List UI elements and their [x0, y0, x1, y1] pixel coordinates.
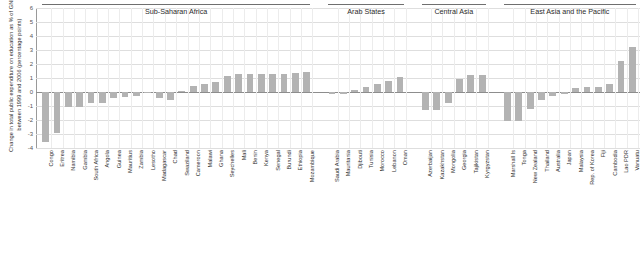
bar-separator [74, 8, 75, 148]
bar [456, 79, 463, 92]
bar [76, 92, 83, 107]
bar [212, 82, 219, 92]
x-axis-label: Mauritius [127, 150, 133, 173]
x-axis-label: Angola [104, 150, 110, 168]
y-axis-tick-label: 5 [30, 19, 33, 25]
bar-separator [97, 8, 98, 148]
bar-separator [119, 8, 120, 148]
x-axis-label: Chad [172, 150, 178, 163]
y-axis-tick-label: 0 [30, 89, 33, 95]
bar [351, 90, 358, 92]
bar [479, 75, 486, 93]
bar [133, 92, 140, 96]
bar-separator [360, 8, 361, 148]
x-axis-label: Tonga [521, 150, 527, 165]
bar [572, 88, 579, 92]
x-axis-label: Saudi Arabia [334, 150, 340, 182]
bar [247, 74, 254, 92]
bar-separator [513, 8, 514, 148]
y-axis-title: Change in total public expenditure on ed… [0, 0, 26, 160]
bar [156, 92, 163, 98]
bar [618, 61, 625, 93]
x-axis-label: Madagascar [161, 150, 167, 181]
bar [99, 92, 106, 103]
x-axis-label: Georgia [461, 150, 467, 170]
region-rule [328, 4, 403, 5]
bar [363, 87, 370, 92]
y-axis-tick-label: 4 [30, 33, 33, 39]
x-axis-label: Guinea [116, 150, 122, 168]
bar-separator [176, 8, 177, 148]
bar-separator [290, 8, 291, 148]
y-axis-tick-label: -3 [28, 131, 33, 137]
bar-separator [51, 8, 52, 148]
x-axis-label: Ghana [218, 150, 224, 167]
y-axis-tick-label: -1 [28, 103, 33, 109]
bar-separator [570, 8, 571, 148]
x-axis-label: Mongolia [450, 150, 456, 173]
bar-separator [465, 8, 466, 148]
y-axis-title-line-2: between 1999 and 2006 (percentage points… [16, 0, 23, 152]
bar [527, 92, 534, 109]
bar-separator [536, 8, 537, 148]
x-axis-label: Cambodia [612, 150, 618, 176]
bar-separator [244, 8, 245, 148]
bar-separator [372, 8, 373, 148]
x-axis-label: Kenya [263, 150, 269, 166]
bar-separator [301, 8, 302, 148]
y-axis-tick-label: 6 [30, 5, 33, 11]
x-axis-label: Kyrgyzstan [484, 150, 490, 178]
x-axis-label: Seychelles [229, 150, 235, 177]
bar-separator [210, 8, 211, 148]
x-axis-labels: CongoEritreaNamibiaGambiaSouth AfricaAng… [36, 150, 640, 250]
bar-separator [349, 8, 350, 148]
bar [122, 92, 129, 97]
bar-separator [627, 8, 628, 148]
region-header: Sub-Saharan Africa [40, 7, 312, 16]
x-axis-label: Namibia [70, 150, 76, 171]
bar-separator [488, 8, 489, 148]
region-header: Central Asia [420, 7, 488, 16]
bar-separator [142, 8, 143, 148]
x-axis-label: Eritrea [59, 150, 65, 167]
bar-separator [188, 8, 189, 148]
bar [445, 92, 452, 103]
bar [65, 92, 72, 107]
bar [433, 92, 440, 110]
bar-separator [153, 8, 154, 148]
bar [190, 86, 197, 92]
bar-separator [442, 8, 443, 148]
bar-separator [338, 8, 339, 148]
x-axis-label: Morocco [379, 150, 385, 172]
y-axis-tick-label: 2 [30, 61, 33, 67]
x-axis-label: Australia [555, 150, 561, 172]
x-axis-label: Mozambique [309, 150, 315, 182]
bar-separator [476, 8, 477, 148]
bar [584, 87, 591, 92]
region-rule [42, 4, 310, 5]
bar [385, 81, 392, 92]
bar [595, 87, 602, 92]
y-axis-tick-label: 1 [30, 75, 33, 81]
bar [292, 73, 299, 92]
x-axis-label: Mali [241, 150, 247, 160]
x-axis-label: Lao PDR [623, 150, 629, 173]
region-rule [422, 4, 486, 5]
x-axis-label: Lebanon [391, 150, 397, 172]
bar-separator [312, 8, 313, 148]
x-axis-label: Djibouti [357, 150, 363, 169]
bar-separator [131, 8, 132, 148]
x-axis-label: Burundi [286, 150, 292, 169]
bar [258, 74, 265, 92]
bar-separator [559, 8, 560, 148]
bar [42, 92, 49, 142]
bar [235, 74, 242, 92]
bar-separator [233, 8, 234, 148]
bar [269, 74, 276, 92]
bar-separator [394, 8, 395, 148]
bar [224, 76, 231, 92]
bar-separator [199, 8, 200, 148]
bar-separator [593, 8, 594, 148]
x-axis-label: Lesotho [150, 150, 156, 170]
x-axis-label: Fiji [600, 150, 606, 157]
